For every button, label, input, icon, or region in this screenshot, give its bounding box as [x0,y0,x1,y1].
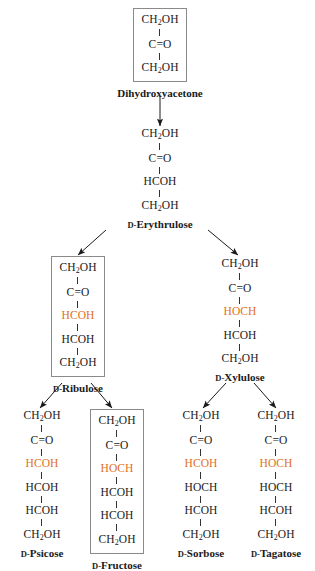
group-highlighted: HOCH [223,306,256,318]
label-d-prefix: D- [251,549,260,559]
group: C=O [229,283,252,295]
group: HCOH [100,510,133,522]
label-text: Dihydroxyacetone [117,87,202,99]
bond-line [200,472,201,479]
structure-tagatose: CH2OHC=OHOCHHOCHHCOHCH2OH [257,410,294,542]
group: CH2OH [23,410,60,423]
label-text: Xylulose [224,371,264,383]
bond-line [200,519,201,526]
group: CH2OH [141,200,178,213]
label-d-prefix: D- [215,373,224,383]
group: CH2OH [141,128,178,141]
group: CH2OH [257,410,294,423]
node-xylulose[interactable]: CH2OHC=OHOCHHCOHCH2OH D-Xylulose [204,258,276,383]
node-tagatose[interactable]: CH2OHC=OHOCHHOCHHCOHCH2OH D-Tagatose [240,410,312,559]
node-sorbose[interactable]: CH2OHC=OHCOHHOCHHCOHCH2OH D-Sorbose [165,410,237,559]
group: HOCH [259,482,292,494]
group-highlighted: HCOH [184,458,217,470]
bond-line [239,273,240,280]
group: CH2OH [23,529,60,542]
bond-line [77,301,78,308]
bond-line [116,524,117,531]
group: HOCH [184,482,217,494]
bond-line [239,320,240,327]
label-tagatose: D-Tagatose [251,547,301,559]
node-fructose[interactable]: CH2OHC=OHOCHHCOHHCOHCH2OH D-Fructose [81,409,153,571]
group: HCOH [100,487,133,499]
bond-line [275,519,276,526]
bond-line [77,277,78,284]
group: CH2OH [221,353,258,366]
label-sorbose: D-Sorbose [178,547,224,559]
group: CH2OH [59,262,96,275]
group: C=O [149,39,172,51]
group: HCOH [61,334,94,346]
bond-line [41,472,42,479]
group: CH2OH [182,410,219,423]
structure-xylulose: CH2OHC=OHOCHHCOHCH2OH [221,258,258,366]
bond-line [275,449,276,456]
bond-line [116,477,117,484]
label-fructose: D-Fructose [92,559,142,571]
group: CH2OH [141,62,178,75]
structure-dihydroxyacetone: CH2OHC=OCH2OH [133,8,186,82]
label-d-prefix: D- [53,384,62,394]
bond-line [200,425,201,432]
label-ribulose: D-Ribulose [53,382,103,394]
bond-line [77,348,78,355]
structure-fructose: CH2OHC=OHOCHHCOHHCOHCH2OH [90,409,143,554]
structure-psicose: CH2OHC=OHCOHHCOHHCOHCH2OH [23,410,60,542]
group: CH2OH [257,529,294,542]
bond-line [41,449,42,456]
bond-line [239,297,240,304]
bond-line [275,425,276,432]
label-erythrulose: D-Erythrulose [127,218,192,230]
group: CH2OH [98,534,135,547]
label-text: Psicose [30,547,64,559]
group: CH2OH [182,529,219,542]
bond-line [200,496,201,503]
bond-line [41,519,42,526]
bond-line [116,430,117,437]
bond-line [116,501,117,508]
node-dihydroxyacetone[interactable]: CH2OHC=OCH2OH Dihydroxyacetone [124,8,196,99]
label-text: Tagatose [260,547,301,559]
structure-erythrulose: CH2OHC=OHCOHCH2OH [141,128,178,213]
label-dihydroxyacetone: Dihydroxyacetone [117,87,202,99]
group: HCOH [25,505,58,517]
bond-line [275,496,276,503]
bond-line [159,29,160,36]
label-xylulose: D-Xylulose [215,371,264,383]
structure-sorbose: CH2OHC=OHCOHHOCHHCOHCH2OH [182,410,219,542]
group: CH2OH [59,357,96,370]
bond-line [200,449,201,456]
group: HCOH [259,505,292,517]
label-psicose: D-Psicose [21,547,64,559]
group: HCOH [184,505,217,517]
label-text: Erythrulose [136,218,192,230]
node-psicose[interactable]: CH2OHC=OHCOHHCOHHCOHCH2OH D-Psicose [7,410,77,559]
arrow-erythrulose-to-xylulose [208,230,238,255]
label-text: Fructose [101,559,142,571]
bond-line [41,425,42,432]
bond-line [159,190,160,197]
group-highlighted: HCOH [61,310,94,322]
group: C=O [149,153,172,165]
node-ribulose[interactable]: CH2OHC=OHCOHHCOHCH2OH D-Ribulose [42,256,114,394]
arrow-xylulose-to-sorbose [203,383,226,408]
bond-line [159,167,160,174]
bond-line [239,344,240,351]
bond-line [77,324,78,331]
group: HCOH [143,176,176,188]
label-text: Sorbose [187,547,224,559]
bond-line [116,454,117,461]
group: CH2OH [98,415,135,428]
bond-line [159,143,160,150]
group: HCOH [223,330,256,342]
group: HCOH [25,482,58,494]
arrow-xylulose-to-tagatose [254,383,276,408]
group-highlighted: HOCH [100,463,133,475]
node-erythrulose[interactable]: CH2OHC=OHCOHCH2OH D-Erythrulose [122,128,198,230]
bond-line [41,496,42,503]
bond-line [159,53,160,60]
